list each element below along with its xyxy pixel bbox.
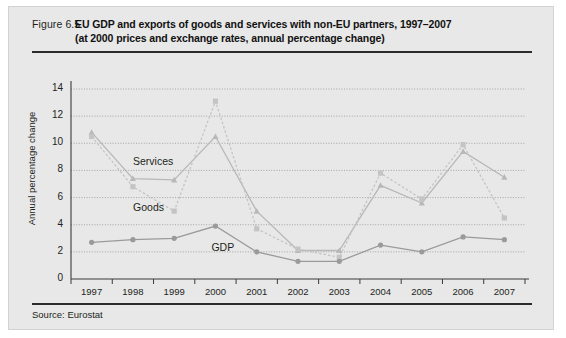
data-point-goods (460, 142, 465, 147)
figure-panel: Figure 6.5 EU GDP and exports of goods a… (8, 6, 554, 330)
footer-divider (32, 303, 532, 305)
series-label-gdp: GDP (211, 241, 234, 253)
x-tick-label: 2005 (402, 286, 442, 297)
x-tick-label: 2006 (443, 286, 483, 297)
data-point-goods (419, 196, 424, 201)
y-tick-label: 8 (37, 163, 63, 174)
series-label-goods: Goods (133, 201, 164, 213)
data-point-goods (502, 215, 507, 220)
data-point-goods (378, 171, 383, 176)
x-tick-label: 2003 (319, 286, 359, 297)
header-divider (32, 51, 532, 53)
data-point-services (254, 208, 260, 214)
data-point-goods (213, 99, 218, 104)
figure-number: Figure 6.5 (32, 18, 80, 30)
data-point-gdp (337, 259, 342, 264)
x-tick-label: 1997 (72, 286, 112, 297)
data-point-gdp (213, 223, 218, 228)
x-tick-label: 2007 (484, 286, 524, 297)
figure-title-line-2: (at 2000 prices and exchange rates, annu… (75, 32, 385, 44)
figure-title-line-1: EU GDP and exports of goods and services… (75, 18, 452, 30)
source-note: Source: Eurostat (32, 309, 103, 320)
data-point-gdp (378, 242, 383, 247)
data-point-goods (89, 134, 94, 139)
x-tick-label: 1998 (113, 286, 153, 297)
x-tick-label: 1999 (154, 286, 194, 297)
line-chart-svg (9, 59, 555, 303)
chart-plot-area: Annual percentage change 246810121401997… (9, 59, 555, 303)
x-tick-label: 2004 (361, 286, 401, 297)
data-point-gdp (130, 237, 135, 242)
data-point-gdp (502, 237, 507, 242)
data-point-gdp (172, 236, 177, 241)
y-tick-label: 4 (37, 218, 63, 229)
y-tick-label: 12 (37, 109, 63, 120)
x-tick-label: 2000 (195, 286, 235, 297)
data-point-gdp (89, 240, 94, 245)
data-point-services (377, 182, 383, 188)
data-point-goods (172, 209, 177, 214)
y-tick-label: 0 (37, 272, 63, 283)
data-point-services (212, 133, 218, 139)
series-label-services: Services (133, 155, 173, 167)
data-point-goods (130, 184, 135, 189)
data-point-gdp (295, 259, 300, 264)
data-point-services (501, 174, 507, 180)
data-point-gdp (254, 249, 259, 254)
y-tick-label: 6 (37, 191, 63, 202)
y-tick-label: 14 (37, 82, 63, 93)
x-tick-label: 2002 (278, 286, 318, 297)
x-tick-label: 2001 (237, 286, 277, 297)
y-tick-label: 2 (37, 245, 63, 256)
data-point-gdp (460, 234, 465, 239)
figure-header: Figure 6.5 EU GDP and exports of goods a… (9, 7, 555, 51)
data-point-goods (295, 247, 300, 252)
y-tick-label: 10 (37, 136, 63, 147)
data-point-goods (254, 226, 259, 231)
data-point-gdp (419, 249, 424, 254)
